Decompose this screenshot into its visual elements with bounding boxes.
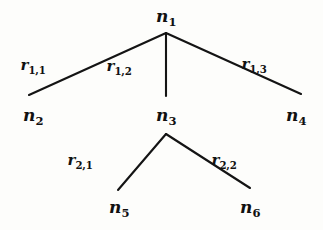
node-label-n3-base: n: [156, 105, 168, 125]
node-label-n4-subscript: 4: [298, 114, 306, 128]
node-label-n4-base: n: [286, 105, 298, 125]
node-label-n6-base: n: [240, 197, 252, 217]
tree-edge-e11: [29, 33, 166, 95]
node-label-n6: n6: [240, 199, 260, 216]
tree-edge-e21: [118, 134, 166, 190]
edge-label-r21: r2,1: [68, 153, 93, 168]
node-label-n1-base: n: [156, 6, 168, 26]
tree-edge-e22: [166, 134, 250, 188]
tree-edge-e13: [166, 33, 301, 94]
node-label-n1-subscript: 1: [168, 15, 176, 29]
node-label-n3: n3: [156, 107, 176, 124]
node-label-n2: n2: [23, 107, 43, 124]
edge-label-r12-subscript: 1,2: [114, 65, 131, 77]
edge-label-r22: r2,2: [212, 153, 237, 168]
node-label-n5-subscript: 5: [121, 206, 129, 220]
node-label-n6-subscript: 6: [252, 206, 260, 220]
edge-label-r22-subscript: 2,2: [219, 159, 236, 171]
edge-label-r13-subscript: 1,3: [249, 63, 266, 75]
edge-label-r13: r1,3: [242, 57, 267, 72]
node-label-n2-base: n: [23, 105, 35, 125]
node-label-n1: n1: [156, 8, 176, 25]
edge-label-r21-subscript: 2,1: [75, 159, 92, 171]
node-label-n2-subscript: 2: [35, 114, 43, 128]
node-label-n3-subscript: 3: [168, 114, 176, 128]
tree-diagram-figure: n1n2n3n4n5n6r1,1r1,2r1,3r2,1r2,2: [0, 0, 323, 230]
node-label-n4: n4: [286, 107, 306, 124]
edge-label-r12: r1,2: [107, 59, 132, 74]
edge-label-r11-subscript: 1,1: [28, 64, 45, 76]
node-label-n5: n5: [109, 199, 129, 216]
edge-label-r11: r1,1: [21, 58, 46, 73]
node-label-n5-base: n: [109, 197, 121, 217]
